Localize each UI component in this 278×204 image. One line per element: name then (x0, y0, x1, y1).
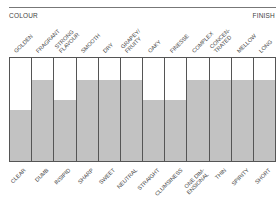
column-fill (10, 110, 31, 162)
chart-column (165, 58, 187, 161)
column-fill (77, 80, 98, 161)
bottom-label: ONE DIM- ENSIONAL (181, 167, 209, 195)
column-fill (32, 80, 53, 161)
top-label: FINESSE (169, 33, 190, 54)
top-label: DRY (102, 41, 115, 54)
bottom-label: DUMB (34, 167, 50, 183)
column-fill (254, 80, 275, 161)
chart-column (254, 58, 275, 161)
chart-column (32, 58, 54, 161)
bottom-label: INSIPID (53, 167, 72, 186)
chart-column (99, 58, 121, 161)
column-fill (99, 80, 120, 161)
chart-column (77, 58, 99, 161)
top-label: CONCEN- TRATED (209, 27, 236, 54)
bottom-label: SHORT (254, 167, 272, 185)
chart-column (232, 58, 254, 161)
chart-column (121, 58, 143, 161)
chart-column (10, 58, 32, 161)
column-fill (143, 100, 164, 161)
column-fill (232, 80, 253, 161)
column-fill (210, 80, 231, 161)
top-label: SMOOTH (80, 32, 102, 54)
column-fill (121, 80, 142, 161)
chart-column (210, 58, 232, 161)
top-label: OAKY (146, 39, 161, 54)
top-label: MELLOW (235, 33, 256, 54)
bottom-label: SPIRITY (230, 167, 250, 187)
column-fill (165, 100, 186, 161)
bottom-label: THIN (214, 167, 227, 180)
top-label: GOLDEN (13, 33, 34, 54)
top-label: LONG (258, 39, 273, 54)
bottom-label: SHARP (76, 167, 94, 185)
colour-label: COLOUR (9, 12, 38, 19)
column-fill (54, 100, 75, 161)
top-rule (9, 7, 276, 8)
column-fill (187, 80, 208, 161)
chart-column (54, 58, 76, 161)
chart-column (143, 58, 165, 161)
bottom-label: CLEAR (10, 167, 27, 184)
bottom-label: SWEET (98, 167, 116, 185)
finish-label: FINISH (252, 12, 275, 19)
chart-column (187, 58, 209, 161)
top-label: GRAPEY/ FRUITY (120, 28, 146, 54)
profile-chart (9, 57, 276, 162)
